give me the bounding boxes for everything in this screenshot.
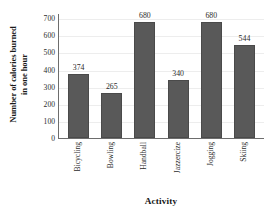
y-axis-tick-label: 400 bbox=[44, 67, 55, 75]
x-axis-title: Activity bbox=[58, 196, 264, 206]
y-axis-tick-label: 700 bbox=[44, 15, 55, 23]
x-cat-slot: Bowling bbox=[94, 140, 127, 192]
x-axis-category-label: Bicycling bbox=[74, 142, 82, 172]
bar-slot: 680 bbox=[195, 14, 228, 138]
y-axis-title-line1: Number of calories burned bbox=[8, 26, 18, 122]
y-axis-title: Number of calories burned in one hour bbox=[0, 0, 36, 148]
bar-slot: 680 bbox=[128, 14, 161, 138]
bar-slot: 374 bbox=[62, 14, 95, 138]
bars-layer: 374265680340680544 bbox=[59, 14, 264, 138]
x-axis-category-label: Bowling bbox=[107, 142, 115, 168]
bar[interactable] bbox=[134, 22, 155, 138]
bar-value-label: 374 bbox=[73, 64, 85, 72]
x-axis-category-labels: BicyclingBowlingHandballJazzercizeJoggin… bbox=[58, 140, 264, 192]
x-cat-slot: Jogging bbox=[194, 140, 227, 192]
bar-slot: 265 bbox=[95, 14, 128, 138]
bar-chart: Number of calories burned in one hour 01… bbox=[0, 0, 269, 221]
x-axis-category-label: Skiing bbox=[240, 142, 248, 162]
bar-slot: 340 bbox=[162, 14, 195, 138]
x-axis-category-label: Jazzercize bbox=[174, 142, 182, 173]
bar[interactable] bbox=[168, 80, 189, 138]
bar[interactable] bbox=[234, 45, 255, 138]
x-cat-slot: Handball bbox=[128, 140, 161, 192]
y-axis-title-line2: in one hour bbox=[18, 26, 29, 122]
x-axis-category-label: Handball bbox=[140, 142, 148, 170]
y-axis-tick-labels: 0100200300400500600700 bbox=[36, 14, 57, 139]
bar[interactable] bbox=[101, 93, 122, 138]
y-axis-tick-label: 200 bbox=[44, 101, 55, 109]
plot-area: 374265680340680544 bbox=[58, 14, 264, 139]
bar-value-label: 680 bbox=[205, 12, 217, 20]
bar-value-label: 680 bbox=[139, 12, 151, 20]
bar-value-label: 265 bbox=[106, 83, 118, 91]
bar-value-label: 544 bbox=[239, 35, 251, 43]
bar-slot: 544 bbox=[228, 14, 261, 138]
x-cat-slot: Jazzercize bbox=[161, 140, 194, 192]
x-cat-slot: Bicycling bbox=[61, 140, 94, 192]
y-axis-tick-label: 100 bbox=[44, 118, 55, 126]
bar-value-label: 340 bbox=[172, 70, 184, 78]
y-axis-tick-label: 600 bbox=[44, 32, 55, 40]
y-axis-tick-label: 300 bbox=[44, 84, 55, 92]
x-axis-category-label: Jogging bbox=[207, 142, 215, 166]
bar[interactable] bbox=[201, 22, 222, 138]
bar[interactable] bbox=[68, 74, 89, 138]
x-cat-slot: Skiing bbox=[228, 140, 261, 192]
y-axis-tick-label: 0 bbox=[51, 135, 55, 143]
y-axis-tick-label: 500 bbox=[44, 49, 55, 57]
